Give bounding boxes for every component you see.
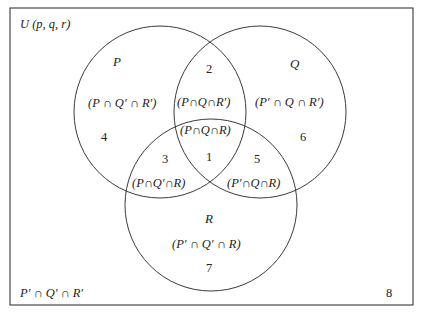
region-8-expression: P′ ∩ Q′ ∩ R′ <box>19 286 83 300</box>
region-5-number: 5 <box>254 152 260 166</box>
region-7-expression: (P′ ∩ Q′ ∩ R) <box>172 237 241 251</box>
region-2-number: 2 <box>206 62 212 76</box>
region-1-number: 1 <box>206 150 212 164</box>
region-3-number: 3 <box>162 152 168 166</box>
set-label-p: P <box>112 54 121 69</box>
region-4-expression: (P ∩ Q′ ∩ R′) <box>88 96 156 110</box>
set-label-r: R <box>204 211 213 226</box>
region-7-number: 7 <box>206 261 212 275</box>
circle-q <box>174 26 346 198</box>
region-6-number: 6 <box>300 130 306 144</box>
region-3-expression: (P∩Q′∩R) <box>132 176 185 190</box>
region-5-expression: (P′∩Q∩R) <box>227 176 280 190</box>
set-label-q: Q <box>290 56 300 71</box>
region-4-number: 4 <box>101 130 108 144</box>
venn-diagram: U (p, q, r) P Q R (P ∩ Q′ ∩ R′) 4 2 (P∩Q… <box>0 0 421 316</box>
circle-p <box>74 26 246 198</box>
region-6-expression: (P′ ∩ Q ∩ R′) <box>255 95 324 109</box>
universe-label: U (p, q, r) <box>20 17 70 31</box>
region-1-expression: (P∩Q∩R) <box>180 123 231 137</box>
region-2-expression: (P∩Q∩R′) <box>177 95 230 109</box>
region-8-number: 8 <box>386 286 392 300</box>
